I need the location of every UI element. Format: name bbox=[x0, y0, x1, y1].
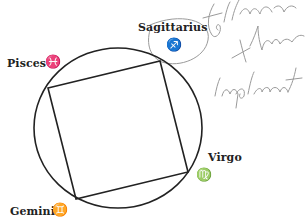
sagittarius-icon: ♐ bbox=[166, 38, 182, 51]
handwritten-annotation bbox=[149, 0, 305, 108]
pisces-icon: ♓ bbox=[45, 55, 61, 68]
inscribed-square bbox=[48, 61, 188, 199]
label-virgo: Virgo bbox=[208, 151, 242, 164]
gemini-icon: ♊ bbox=[52, 203, 68, 216]
label-sagittarius: Sagittarius bbox=[138, 21, 208, 34]
virgo-icon: ♍ bbox=[196, 168, 212, 181]
zodiac-square-diagram: Sagittarius ♐ Pisces ♓ Virgo ♍ Gemini ♊ bbox=[0, 0, 308, 223]
label-gemini: Gemini bbox=[10, 205, 55, 218]
label-pisces: Pisces bbox=[7, 57, 46, 70]
